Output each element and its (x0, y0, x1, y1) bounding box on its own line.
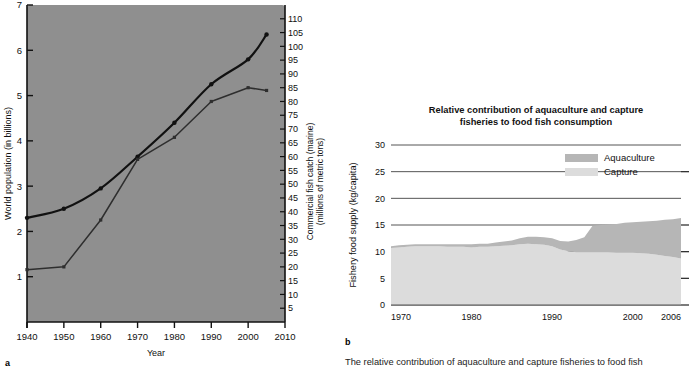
right-axis-tick-label: 25 (288, 248, 298, 258)
right-axis-tick-label: 50 (288, 179, 298, 189)
right-axis-title-line2: (millions of metric tons) (315, 138, 325, 226)
x-axis-tick-label: 2010 (274, 331, 295, 342)
right-axis-tick-label: 20 (288, 262, 298, 272)
chart-a-svg: 1234567510152025303540455055606570758085… (0, 0, 340, 376)
y-axis-tick-label: 15 (375, 220, 385, 230)
right-axis-tick-label: 105 (288, 28, 303, 38)
right-axis-tick-label: 40 (288, 207, 298, 217)
right-axis-tick-label: 55 (288, 166, 298, 176)
chart-b-title-line1: Relative contribution of aquaculture and… (429, 105, 643, 115)
population-data-point (25, 216, 29, 220)
fish-catch-data-point (210, 100, 213, 103)
right-axis-tick-label: 90 (288, 69, 298, 79)
left-axis-tick-label: 2 (17, 226, 22, 237)
population-data-point (246, 57, 250, 61)
left-axis-tick-label: 7 (17, 0, 22, 10)
legend-label-capture: Capture (604, 166, 638, 177)
population-data-point (99, 186, 103, 190)
right-axis-tick-label: 80 (288, 97, 298, 107)
left-axis-tick-label: 3 (17, 181, 22, 192)
fish-catch-data-point (25, 268, 28, 271)
left-axis-tick-label: 4 (17, 135, 22, 146)
right-axis-tick-label: 95 (288, 55, 298, 65)
x-axis-tick-label: 1960 (90, 331, 111, 342)
y-axis-tick-label: 25 (375, 167, 385, 177)
right-axis-tick-label: 15 (288, 276, 298, 286)
right-axis-tick-label: 60 (288, 152, 298, 162)
legend-label-aquaculture: Aquaculture (604, 152, 655, 163)
x-axis-tick-label: 2000 (623, 312, 643, 322)
x-axis-title: Year (147, 348, 165, 358)
left-axis-tick-label: 1 (17, 271, 22, 282)
x-axis-tick-label: 1970 (391, 312, 411, 322)
chart-b-title-line2: fisheries to food fish consumption (460, 117, 613, 127)
right-axis-tick-label: 45 (288, 193, 298, 203)
panel-b-letter: b (345, 337, 351, 347)
y-axis-tick-label: 20 (375, 194, 385, 204)
right-axis-tick-label: 10 (288, 290, 298, 300)
fish-catch-data-point (265, 89, 268, 92)
y-axis-tick-label: 0 (380, 300, 385, 310)
y-axis-tick-label: 5 (380, 274, 385, 284)
y-axis-tick-label: 10 (375, 247, 385, 257)
x-axis-tick-label: 1940 (16, 331, 37, 342)
population-data-point (264, 32, 268, 36)
right-axis-title-line1: Commercial fish catch (marine) (305, 123, 315, 241)
x-axis-tick-label: 2000 (238, 331, 259, 342)
right-axis-tick-label: 70 (288, 124, 298, 134)
figure-caption: The relative contribution of aquaculture… (345, 357, 695, 369)
chart-b-svg: Relative contribution of aquaculture and… (340, 100, 695, 350)
y-axis-title: Fishery food supply (kg/capita) (348, 162, 358, 287)
x-axis-tick-label: 2006 (661, 312, 681, 322)
population-data-point (172, 121, 176, 125)
x-axis-tick-label: 1980 (164, 331, 185, 342)
left-axis-tick-label: 6 (17, 45, 22, 56)
x-axis-tick-label: 1990 (542, 312, 562, 322)
fish-catch-data-point (247, 86, 250, 89)
right-axis-tick-label: 35 (288, 221, 298, 231)
right-axis-tick-label: 85 (288, 83, 298, 93)
fish-catch-data-point (136, 158, 139, 161)
right-axis-tick-label: 75 (288, 110, 298, 120)
left-axis-tick-label: 5 (17, 90, 22, 101)
left-axis-title: World population (in billions) (3, 107, 13, 220)
population-data-point (209, 82, 213, 86)
panel-b-aquaculture-capture-chart: Relative contribution of aquaculture and… (340, 0, 695, 376)
x-axis-tick-label: 1980 (462, 312, 482, 322)
fish-catch-data-point (62, 265, 65, 268)
legend-swatch-aquaculture (565, 154, 598, 162)
right-axis-tick-label: 30 (288, 235, 298, 245)
panel-a-letter: a (5, 358, 11, 368)
x-axis-tick-label: 1990 (201, 331, 222, 342)
fish-catch-data-point (99, 218, 102, 221)
panel-a-population-fishcatch-chart: 1234567510152025303540455055606570758085… (0, 0, 340, 376)
right-axis-tick-label: 5 (288, 303, 293, 313)
right-axis-tick-label: 100 (288, 42, 303, 52)
legend-swatch-capture (565, 168, 598, 176)
y-axis-tick-label: 30 (375, 140, 385, 150)
right-axis-tick-label: 65 (288, 138, 298, 148)
fish-catch-data-point (173, 136, 176, 139)
plot-area-background (27, 5, 285, 322)
x-axis-tick-label: 1970 (127, 331, 148, 342)
right-axis-tick-label: 110 (288, 14, 302, 24)
population-data-point (62, 207, 66, 211)
x-axis-tick-label: 1950 (53, 331, 74, 342)
